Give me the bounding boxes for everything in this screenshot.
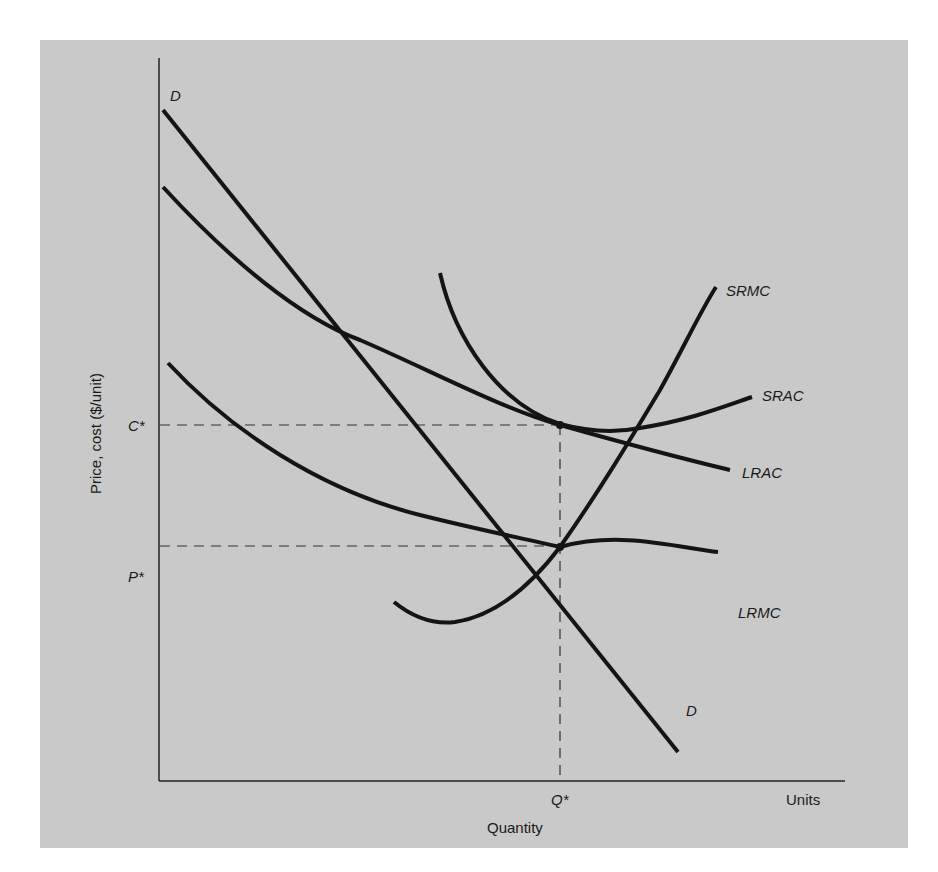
tick-q-star: Q* <box>551 791 570 808</box>
tick-p-star: P* <box>128 568 145 585</box>
tick-c-star: C* <box>128 417 146 434</box>
label-lrmc: LRMC <box>738 604 781 621</box>
label-d-bottom: D <box>686 702 697 719</box>
tangency-point <box>556 421 564 429</box>
label-srac: SRAC <box>762 387 804 404</box>
label-lrac: LRAC <box>742 464 782 481</box>
label-srmc: SRMC <box>726 282 770 299</box>
srac-curve <box>440 273 752 431</box>
x-axis-title: Quantity <box>487 819 543 836</box>
cost-curves-diagram: D D SRMC SRAC LRAC LRMC C* P* Q* Units Q… <box>0 0 938 872</box>
equilibrium-point <box>556 543 564 551</box>
y-axis-title: Price, cost ($/unit) <box>87 373 104 494</box>
x-units-label: Units <box>786 791 820 808</box>
label-d-top: D <box>170 87 181 104</box>
